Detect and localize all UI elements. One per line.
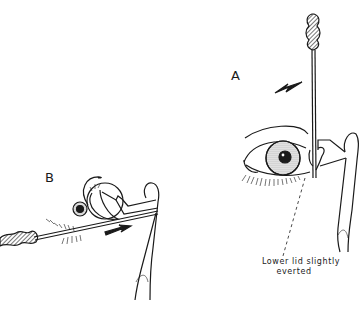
annotation-caption: Lower lid slightly everted: [240, 257, 361, 277]
arrow-icon: [105, 225, 131, 235]
arrow-icon: [275, 82, 302, 93]
illustration: [0, 0, 361, 329]
panel-label-b: B: [45, 170, 54, 185]
cotton-tip-icon: [306, 14, 320, 50]
panel-label-a: A: [231, 68, 240, 83]
cotton-tip-icon: [0, 231, 37, 246]
panel-b-drawing: [0, 177, 159, 300]
annotation-line-2: everted: [226, 267, 361, 277]
panel-a-drawing: [242, 14, 358, 256]
annotation-line-1: Lower lid slightly: [240, 257, 361, 267]
